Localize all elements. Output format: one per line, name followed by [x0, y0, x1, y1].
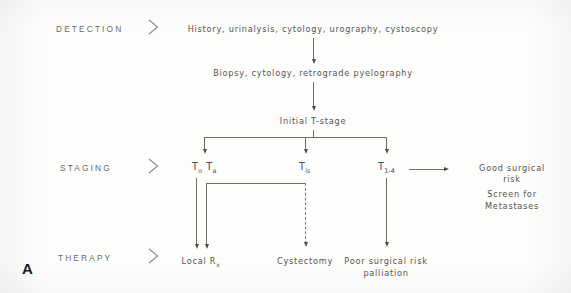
arrowhead-bridge-to-local-rx	[205, 244, 209, 249]
row-label-therapy: THERAPY	[58, 253, 112, 264]
outcome-good-surgical-risk-line1: Good surgical	[463, 163, 561, 173]
arrowhead-t0-to-local-rx	[195, 244, 199, 249]
connector-t0-to-local-rx	[196, 178, 197, 246]
stage-ta-subscript: a	[212, 167, 216, 175]
stage-node-t0-ta: ToTa	[192, 161, 216, 175]
arrowhead-t14-to-poor-risk	[385, 242, 389, 247]
therapy-local-rx-base: Local R	[181, 256, 216, 266]
chevron-right-icon-staging	[148, 158, 159, 174]
connector-detection-to-diagnostic	[313, 38, 314, 61]
arrowhead-t14-to-good-risk	[444, 167, 449, 171]
arrowhead-bus-to-tis	[304, 149, 308, 154]
stage-tis-subscript: is	[305, 167, 310, 175]
row-label-detection: DETECTION	[56, 24, 123, 35]
arrowhead-bus-to-t14	[385, 149, 389, 154]
therapy-node-poor-risk-line1: Poor surgical risk	[326, 256, 446, 266]
flowchart-figure: DETECTION STAGING THERAPY A History, uri…	[0, 0, 571, 293]
connector-t14-to-poor-risk	[386, 178, 387, 244]
row-label-staging: STAGING	[60, 163, 112, 174]
connector-t14-to-good-risk	[409, 169, 445, 170]
connector-bridge-down-to-local-rx	[206, 183, 207, 246]
therapy-node-local-rx: Local Rx	[181, 256, 220, 268]
connector-tis-to-cystectomy-dashed	[305, 183, 306, 244]
stage-t14-subscript: 1-4	[384, 167, 394, 175]
outcome-screen-metastases-line2: Metastases	[463, 201, 561, 211]
connector-diagnostic-to-stage	[313, 82, 314, 108]
arrowhead-tis-to-cystectomy	[304, 242, 308, 247]
node-diagnostic-workup: Biopsy, cytology, retrograde pyelography	[213, 68, 413, 78]
node-initial-t-stage: Initial T-stage	[280, 116, 346, 126]
therapy-node-cystectomy: Cystectomy	[277, 256, 333, 266]
chevron-right-icon-detection	[148, 19, 159, 35]
panel-label: A	[22, 260, 33, 277]
arrowhead-diagnostic-to-stage	[312, 106, 316, 111]
chevron-right-icon-therapy	[148, 248, 159, 264]
outcome-good-surgical-risk-line2: risk	[463, 174, 561, 184]
node-detection-workup: History, urinalysis, cytology, urography…	[188, 24, 439, 34]
connector-stage-bus	[204, 137, 386, 138]
arrowhead-detection-to-diagnostic	[312, 59, 316, 64]
stage-node-tis: Tis	[299, 161, 310, 175]
therapy-local-rx-subscript: x	[216, 261, 220, 268]
stage-t0-subscript: o	[198, 167, 202, 175]
therapy-node-poor-risk-line2: palliation	[326, 268, 446, 278]
connector-stage-stem	[313, 130, 314, 137]
stage-node-t1-4: T1-4	[378, 161, 395, 175]
arrowhead-bus-to-t0ta	[203, 149, 207, 154]
connector-tis-bridge-to-local-rx	[206, 183, 305, 184]
outcome-screen-metastases-line1: Screen for	[463, 189, 561, 199]
